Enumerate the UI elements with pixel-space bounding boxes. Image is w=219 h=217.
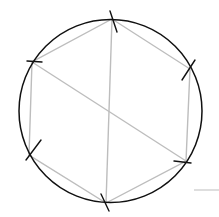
diagonal-slanted — [32, 62, 186, 161]
tick-upper-left — [27, 61, 42, 62]
hexagon-construction-diagram — [0, 0, 219, 217]
hexagon-edges — [29, 19, 190, 203]
tick-lower-right — [174, 161, 191, 163]
